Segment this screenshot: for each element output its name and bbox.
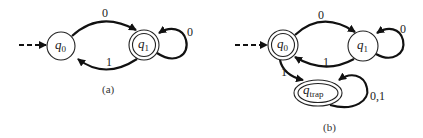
edge-label: 0,1 [370, 89, 385, 103]
diagram-b: q0 q1 qtrap 0 1 0 1 0,1 (b) [235, 8, 406, 134]
state-subscript: 1 [364, 44, 369, 54]
automata-figure: q0 q1 0 1 0 (a) q0 q1 [0, 0, 423, 138]
state-subscript: trap [310, 89, 324, 99]
caption-b: (b) [323, 121, 336, 134]
state-subscript: 1 [145, 43, 150, 53]
edge-label: 1 [323, 55, 329, 69]
edge-label: 1 [106, 55, 112, 69]
state-b-q0: q0 [268, 30, 298, 60]
edge-label: 1 [281, 65, 287, 79]
state-subscript: 0 [62, 44, 67, 54]
edge-label: 0 [400, 22, 406, 36]
edge-a-q0-q1 [72, 21, 136, 36]
state-a-q1: q1 [129, 30, 159, 60]
state-a-q0: q0 [47, 32, 75, 60]
edge-label: 0 [318, 8, 324, 22]
edge-b-q0-q1 [295, 22, 355, 35]
edge-label: 0 [187, 25, 193, 39]
state-subscript: 0 [284, 43, 289, 53]
state-b-qtrap: qtrap [294, 80, 342, 106]
edge-label: 0 [102, 6, 108, 20]
state-b-q1: q1 [348, 31, 378, 61]
caption-a: (a) [102, 83, 115, 96]
edge-a-q1-loop [157, 29, 187, 58]
diagram-a: q0 q1 0 1 0 (a) [19, 6, 193, 96]
